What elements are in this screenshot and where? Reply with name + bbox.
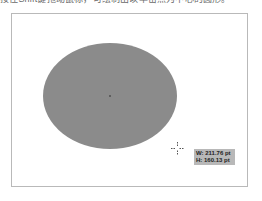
- crosshair-icon: [171, 142, 184, 155]
- tooltip-height: H: 160.13 pt: [196, 157, 233, 164]
- center-point-icon: [109, 95, 111, 97]
- dimension-tooltip: W: 211.76 pt H: 160.13 pt: [194, 149, 235, 165]
- tooltip-width: W: 211.76 pt: [196, 150, 233, 157]
- stage: 按住Shift键拖动鼠标，可绘制出以单击点为中心的圆形。 W: 211.76 p…: [0, 0, 262, 201]
- caption-text: 按住Shift键拖动鼠标，可绘制出以单击点为中心的圆形。: [0, 0, 262, 4]
